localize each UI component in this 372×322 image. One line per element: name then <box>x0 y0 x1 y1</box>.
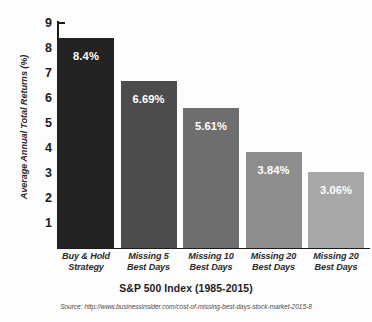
y-axis-tick-label: 9 <box>26 17 52 30</box>
y-axis-tick-label: 5 <box>26 117 52 130</box>
bar: 8.4% <box>58 38 114 248</box>
y-axis-tick-label: 3 <box>26 167 52 180</box>
x-axis-category-label: Missing 20Best Days <box>242 251 306 273</box>
y-axis-tick-label: 1 <box>26 217 52 230</box>
x-axis-category-label-line: Buy & Hold <box>54 251 118 262</box>
x-axis-category-label-line: Best Days <box>179 262 243 273</box>
bar: 3.84% <box>246 152 302 248</box>
x-axis-title: S&P 500 Index (1985-2015) <box>0 283 372 294</box>
y-axis-tick-label: 2 <box>26 192 52 205</box>
bar-chart-figure: Average Annual Total Returns (%) 1234567… <box>0 0 372 322</box>
bar: 5.61% <box>183 108 239 248</box>
bar-value-label: 3.84% <box>246 164 302 176</box>
x-axis-category-label-line: Missing 20 <box>242 251 306 262</box>
x-axis-category-label: Buy & HoldStrategy <box>54 251 118 273</box>
x-axis-category-label-line: Strategy <box>54 262 118 273</box>
y-axis-tick-label: 6 <box>26 92 52 105</box>
bar-value-label: 6.69% <box>121 93 177 105</box>
bar: 3.06% <box>308 172 364 249</box>
x-axis-category-label-line: Missing 5 <box>117 251 181 262</box>
x-axis-category-label: Missing 20Best Days <box>304 251 368 273</box>
x-axis-category-label: Missing 10Best Days <box>179 251 243 273</box>
x-axis-category-label-line: Best Days <box>117 262 181 273</box>
source-note: Source: http://www.businessinsider.com/c… <box>0 303 372 310</box>
y-axis-tick-label: 7 <box>26 67 52 80</box>
bar: 6.69% <box>121 81 177 248</box>
bar-value-label: 5.61% <box>183 120 239 132</box>
y-axis-tick-label: 8 <box>26 42 52 55</box>
y-axis-tick-label: 4 <box>26 142 52 155</box>
x-axis-category-label-line: Missing 10 <box>179 251 243 262</box>
x-axis-category-label-line: Best Days <box>304 262 368 273</box>
x-axis-category-label: Missing 5Best Days <box>117 251 181 273</box>
bar-value-label: 3.06% <box>308 184 364 196</box>
x-axis-category-label-line: Best Days <box>242 262 306 273</box>
bar-value-label: 8.4% <box>58 50 114 62</box>
x-axis-category-label-line: Missing 20 <box>304 251 368 262</box>
y-axis-tick <box>57 22 65 24</box>
